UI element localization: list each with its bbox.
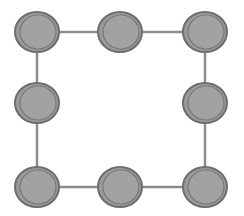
graph-node: [15, 83, 59, 123]
graph-node: [15, 167, 59, 207]
graph-diagram: [0, 0, 244, 216]
graph-node: [98, 12, 142, 52]
graph-node: [98, 167, 142, 207]
graph-node: [15, 12, 59, 52]
graph-node: [183, 167, 227, 207]
graph-node: [183, 12, 227, 52]
graph-node: [183, 83, 227, 123]
